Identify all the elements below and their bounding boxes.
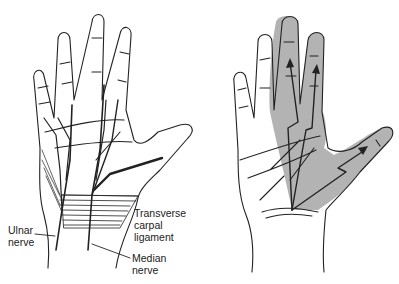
label-transverse-line2: carpal bbox=[134, 219, 186, 231]
label-ulnar-line1: Ulnar bbox=[8, 224, 34, 236]
label-transverse-line3: ligament bbox=[134, 231, 186, 243]
label-ulnar-line2: nerve bbox=[8, 236, 34, 248]
label-median-line2: nerve bbox=[132, 264, 166, 276]
label-median-nerve: Median nerve bbox=[132, 252, 166, 276]
label-transverse-carpal-ligament: Transverse carpal ligament bbox=[134, 207, 186, 243]
label-median-line1: Median bbox=[132, 252, 166, 264]
left-hand-panel: Ulnar nerve Transverse carpal ligament M… bbox=[0, 0, 200, 284]
median-sensory-shading bbox=[269, 16, 392, 210]
label-ulnar-nerve: Ulnar nerve bbox=[8, 224, 34, 248]
right-hand-illustration bbox=[200, 0, 399, 284]
right-hand-panel bbox=[200, 0, 399, 284]
label-transverse-line1: Transverse bbox=[134, 207, 186, 219]
